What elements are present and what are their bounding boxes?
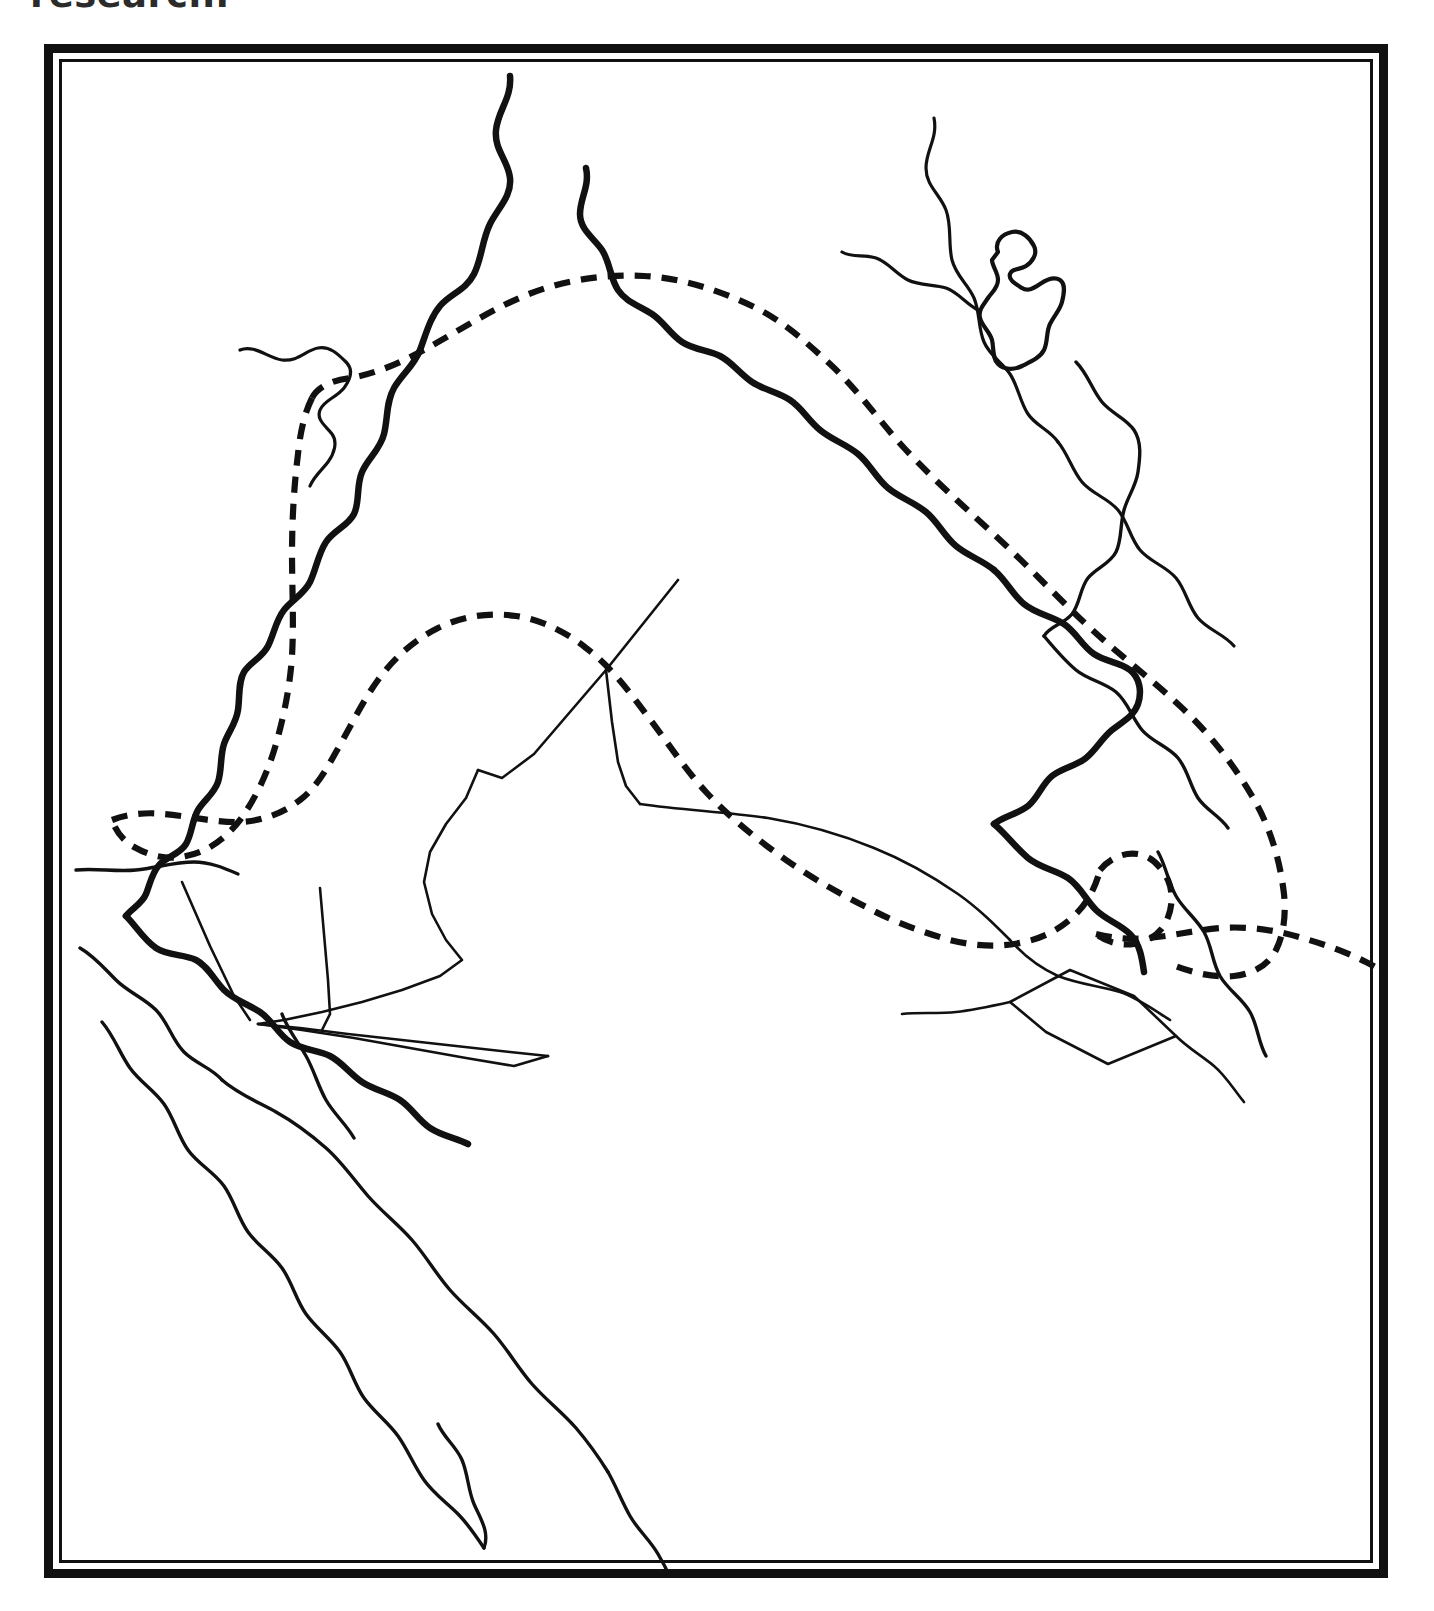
tigris-river-upper — [580, 168, 994, 570]
arabian-interior-lower — [608, 1472, 672, 1578]
shatt-al-arab — [994, 824, 1144, 972]
outline-map-svg — [62, 62, 1388, 1578]
tigris-river-lower — [994, 570, 1140, 824]
red-sea-west-coast — [102, 1022, 484, 1548]
map-feature-layer — [76, 76, 1388, 1578]
dashed-boundary-gulf-loop — [1096, 854, 1172, 945]
red-sea-east-coast — [80, 948, 222, 1080]
border-iraq-saudi — [640, 804, 1010, 940]
border-syria-iraq-north — [478, 580, 678, 778]
gulf-coast-iran-side — [1158, 852, 1266, 1056]
caption-strip: research. — [0, 0, 1434, 30]
zab-tributary-north — [926, 118, 1058, 442]
border-neutral-zone-spur — [320, 888, 330, 1030]
border-qatar-spur — [1176, 1036, 1244, 1102]
zagros-foothill-stream — [1058, 442, 1234, 646]
border-jordan-iraq-vertical — [606, 670, 640, 804]
red-sea-coast-tail — [438, 1424, 486, 1548]
border-saudi-gulf-south — [902, 1002, 1010, 1014]
caption-fragment-text: research. — [30, 0, 230, 16]
lake-urmia-outline — [980, 232, 1064, 369]
eastern-stream-upper — [842, 252, 978, 310]
figure-frame — [44, 44, 1388, 1578]
map-canvas — [62, 62, 1388, 1578]
euphrates-river — [126, 76, 510, 916]
arabian-interior-line — [222, 1080, 608, 1472]
dashed-boundary-north-upper — [312, 276, 1285, 977]
border-neutral-diamond — [1010, 970, 1176, 1064]
border-jordan-saudi-west — [258, 770, 478, 1024]
